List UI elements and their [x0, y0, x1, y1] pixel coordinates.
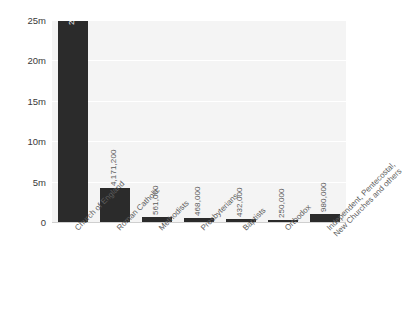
- bar[interactable]: [58, 21, 88, 222]
- y-axis-tick-label: 0: [2, 217, 46, 228]
- plot-area: 24,841,0004,171,200561,000468,000432,000…: [52, 20, 346, 222]
- bar-value-label: 980,000: [319, 182, 328, 212]
- bar-value-label: 468,000: [193, 187, 202, 217]
- bar-group[interactable]: 250,000: [268, 20, 298, 222]
- bar-group[interactable]: 980,000: [310, 20, 340, 222]
- x-axis-baseline: [52, 222, 346, 223]
- bar-value-label: 432,000: [235, 187, 244, 217]
- y-axis-tick-label: 20m: [2, 55, 46, 66]
- y-axis-tick-label: 5m: [2, 176, 46, 187]
- bar-group[interactable]: 432,000: [226, 20, 256, 222]
- bar-value-label: 250,000: [277, 188, 286, 218]
- y-axis-tick-label: 10m: [2, 136, 46, 147]
- bar-group[interactable]: 24,841,000: [58, 20, 88, 222]
- bar-value-label: 24,841,000: [67, 0, 76, 25]
- bar-group[interactable]: 468,000: [184, 20, 214, 222]
- y-axis-tick-label: 25m: [2, 15, 46, 26]
- y-axis-tick-label: 15m: [2, 95, 46, 106]
